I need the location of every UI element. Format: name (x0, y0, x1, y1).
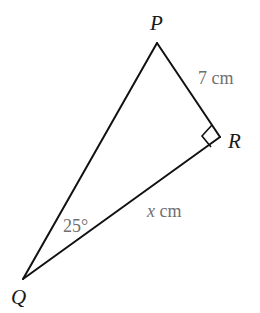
side-pq (23, 43, 157, 279)
vertex-label-r: R (227, 129, 241, 153)
side-pr-value: 7 (198, 68, 207, 88)
side-pr (157, 43, 220, 137)
angle-q-label: 25° (63, 216, 88, 236)
side-qr-unit: cm (155, 201, 182, 221)
side-pr-unit: cm (207, 68, 234, 88)
side-qr-length-label: x cm (146, 201, 182, 221)
vertex-label-q: Q (11, 285, 26, 309)
triangle-diagram: P R Q 7 cm x cm 25° (0, 0, 260, 313)
side-pr-length-label: 7 cm (198, 68, 234, 88)
side-qr-variable: x (146, 201, 155, 221)
vertex-label-p: P (149, 11, 163, 35)
side-qr (23, 137, 220, 279)
